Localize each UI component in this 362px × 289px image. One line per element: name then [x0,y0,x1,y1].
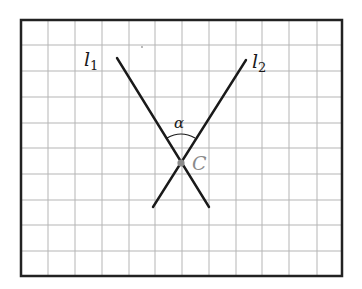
grid [21,20,342,276]
line-l1-label: l1 [84,48,98,73]
point-c [177,159,184,166]
geometry-figure: α C l1 l2 [0,0,362,289]
line-l2 [153,60,246,207]
point-c-label: C [192,152,207,174]
line-l1 [117,58,209,207]
speck [141,46,143,48]
angle-arc [167,134,195,138]
angle-label: α [174,114,184,132]
line-l2-label: l2 [252,50,266,75]
